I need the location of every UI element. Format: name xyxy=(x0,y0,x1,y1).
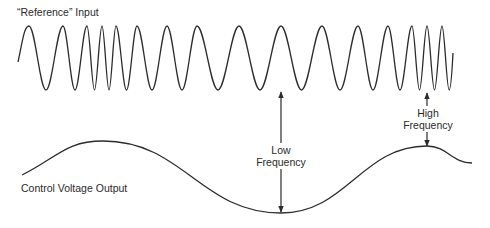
high-frequency-label: High Frequency xyxy=(403,107,453,131)
control-voltage-output-label: Control Voltage Output xyxy=(21,182,127,194)
reference-input-waveform xyxy=(18,26,453,90)
low-frequency-label: Low Frequency xyxy=(256,143,306,169)
high-frequency-label-line1: High xyxy=(403,107,453,119)
control-voltage-curve xyxy=(22,141,472,213)
low-frequency-label-line1: Low xyxy=(256,144,306,156)
high-frequency-label-line2: Frequency xyxy=(403,119,453,131)
low-frequency-label-line2: Frequency xyxy=(256,156,306,168)
reference-input-label: “Reference” Input xyxy=(17,6,99,18)
